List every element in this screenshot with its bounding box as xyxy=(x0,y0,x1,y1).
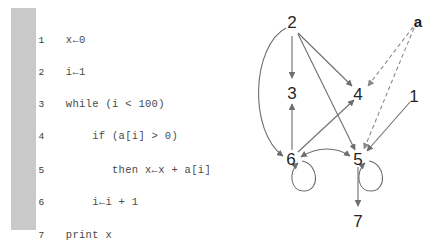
dependence-graph: 2 3 4 6 5 7 1 a xyxy=(220,0,433,240)
edge-a-to-5-dashed xyxy=(364,28,414,149)
graph-node-a[interactable]: a xyxy=(414,13,423,30)
code-line: 2i←1 xyxy=(11,40,86,60)
line-source: print x xyxy=(54,225,112,240)
graph-node-2[interactable]: 2 xyxy=(287,13,296,32)
code-line: 5 then x←x + a[i] xyxy=(11,138,211,158)
line-number: 7 xyxy=(29,226,54,240)
edge-a-to-4-dashed xyxy=(368,27,413,86)
code-line: 6 i←i + 1 xyxy=(11,170,138,190)
graph-node-1[interactable]: 1 xyxy=(409,87,418,106)
edge-6-to-4 xyxy=(298,100,354,152)
graph-node-6[interactable]: 6 xyxy=(286,150,295,169)
graph-node-4[interactable]: 4 xyxy=(353,85,362,104)
edge-2-to-6 xyxy=(259,28,286,156)
graph-node-7[interactable]: 7 xyxy=(353,212,362,231)
edge-2-to-4 xyxy=(298,33,352,86)
edge-6-to-5-bidirectional xyxy=(301,149,350,157)
dependence-graph-panel: 2 3 4 6 5 7 1 a xyxy=(220,0,433,240)
code-line: 3while (i < 100) xyxy=(11,72,165,92)
graph-node-5[interactable]: 5 xyxy=(353,150,362,169)
graph-node-3[interactable]: 3 xyxy=(287,84,296,103)
code-line: 1x←0 xyxy=(11,8,86,28)
code-line: 4 if (a[i] > 0) xyxy=(11,104,178,124)
edge-2-to-5 xyxy=(298,34,355,150)
pseudocode-panel: 1x←0 2i←1 3while (i < 100) 4 if (a[i] > … xyxy=(0,0,220,240)
code-line: 7print x xyxy=(11,203,112,223)
